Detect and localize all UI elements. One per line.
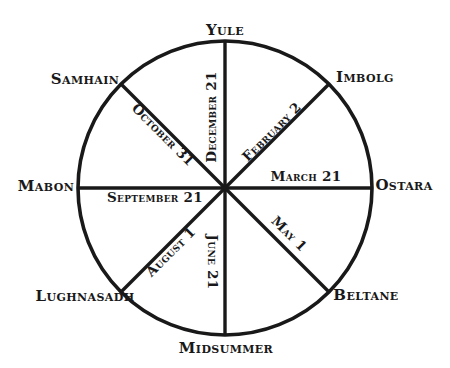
festival-label-imbolg: Imbolg [336, 70, 394, 85]
festival-label-ostara: Ostara [375, 178, 432, 193]
date-label-march-21: March 21 [271, 170, 342, 184]
wheel-of-the-year-diagram: Yule Imbolg Ostara Beltane Midsummer Lug… [0, 0, 450, 368]
date-label-september-21: September 21 [107, 191, 203, 205]
festival-label-yule: Yule [206, 23, 244, 38]
date-label-june-21: June 21 [205, 235, 219, 290]
festival-label-lughnasadh: Lughnasadh [36, 289, 135, 304]
date-label-december-21: December 21 [205, 71, 219, 162]
festival-label-samhain: Samhain [51, 72, 119, 87]
center-hub [222, 185, 229, 192]
festival-label-mabon: Mabon [18, 179, 74, 194]
festival-label-midsummer: Midsummer [179, 341, 273, 356]
festival-label-beltane: Beltane [333, 288, 398, 303]
